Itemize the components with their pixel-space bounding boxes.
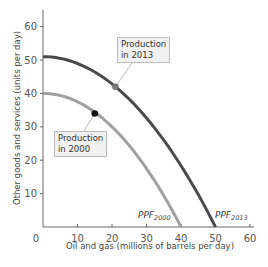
y-tick-label: 40 xyxy=(24,88,37,99)
y-ticks: 102030405060 xyxy=(24,21,43,199)
annotation-2013-line2: in 2013 xyxy=(121,50,166,61)
production-points xyxy=(91,83,118,116)
annotation-2000-line1: Production xyxy=(58,133,103,144)
annotation-production-2013: Production in 2013 xyxy=(117,37,170,63)
curve-label-2000: PPF2000 xyxy=(138,210,171,222)
annotation-2000-line2: in 2000 xyxy=(58,144,103,155)
y-tick-label: 20 xyxy=(24,155,37,166)
x-tick-label: 60 xyxy=(244,233,257,244)
annotation-2013-line1: Production xyxy=(121,39,166,50)
ppf-curve-2000 xyxy=(43,93,181,227)
x-tick-label: 0 xyxy=(33,233,39,244)
annotation-production-2000: Production in 2000 xyxy=(54,131,107,157)
x-axis-label: Oil and gas (millions of barrels per day… xyxy=(66,241,234,251)
y-axis-label: Other goods and services (units per day) xyxy=(12,31,22,205)
y-tick-label: 60 xyxy=(24,21,37,32)
curve-labels: PPF2000PPF2013 xyxy=(138,210,248,222)
production-point xyxy=(91,110,98,117)
y-tick-label: 10 xyxy=(24,188,37,199)
curve-label-2013: PPF2013 xyxy=(215,210,248,222)
y-tick-label: 30 xyxy=(24,121,37,132)
production-point xyxy=(112,83,119,90)
y-tick-label: 50 xyxy=(24,55,37,66)
